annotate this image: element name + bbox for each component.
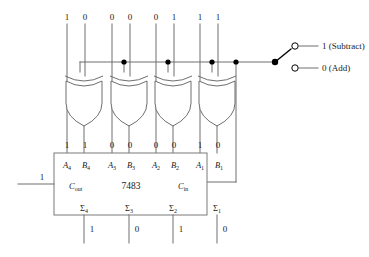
xor-gate-2-body [155, 81, 191, 126]
value-sum1: 0 [223, 224, 228, 234]
value-b4-input: 0 [83, 12, 88, 22]
value-a1-input: 1 [198, 12, 203, 22]
top-input-values: 1 0 0 0 0 1 1 1 [65, 12, 221, 22]
xor-gate-3-back-arc [110, 76, 148, 81]
junction-dot-xor3 [121, 59, 126, 64]
value-sum2: 1 [179, 224, 184, 234]
value-a3-input: 0 [110, 12, 115, 22]
switch-terminal-add[interactable] [292, 65, 298, 71]
switch-label-add: 0 (Add) [322, 63, 350, 73]
value-b2-chip: 0 [172, 140, 177, 150]
value-b3-chip: 0 [128, 140, 133, 150]
junction-dot-xor2 [165, 59, 170, 64]
switch-label-subtract: 1 (Subtract) [322, 41, 365, 51]
mode-switch[interactable] [272, 43, 318, 71]
value-a2-chip: 0 [154, 140, 159, 150]
xor-gate-4-body [66, 81, 102, 126]
switch-arm[interactable] [275, 49, 291, 62]
chip-name-label: 7483 [122, 181, 141, 191]
value-a1-chip: 1 [198, 140, 203, 150]
pin-label-b1: B1 [215, 160, 223, 171]
xor-gate-2-back-arc [154, 76, 192, 81]
value-carry-out: 1 [40, 172, 45, 182]
switch-terminal-subtract[interactable] [292, 43, 298, 49]
value-b1-input: 1 [216, 12, 221, 22]
value-a3-chip: 0 [110, 140, 115, 150]
xor-gate-1-back-arc [198, 76, 236, 81]
value-a2-input: 0 [154, 12, 159, 22]
xor-gate-3-body [111, 81, 147, 126]
junction-dot-xor1 [209, 59, 214, 64]
circuit-schematic: 1 0 0 0 0 1 1 1 1 1 0 0 0 0 1 0 A4 B4 A3… [0, 0, 369, 257]
circuit-diagram-canvas: 1 0 0 0 0 1 1 1 1 1 0 0 0 0 1 0 A4 B4 A3… [0, 0, 369, 257]
value-b2-input: 1 [172, 12, 177, 22]
value-a4-input: 1 [65, 12, 70, 22]
xor-gate-1-body [199, 81, 235, 126]
value-b4-chip: 1 [83, 140, 88, 150]
sum-output-wires [84, 215, 217, 243]
value-b1-chip: 0 [216, 140, 221, 150]
chip-input-values: 1 1 0 0 0 0 1 0 [65, 140, 221, 150]
value-b3-input: 0 [128, 12, 133, 22]
value-a4-chip: 1 [65, 140, 70, 150]
pin-label-sum1: Σ1 [213, 203, 221, 214]
xor-gate-4-back-arc [65, 76, 103, 81]
value-sum4: 1 [90, 224, 95, 234]
sum-values: 1 0 1 0 [90, 224, 228, 234]
junction-dot-carry-in [233, 59, 238, 64]
value-sum3: 0 [135, 224, 140, 234]
